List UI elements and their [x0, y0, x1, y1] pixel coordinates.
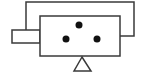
dot-top [76, 22, 83, 29]
base-triangle-icon [74, 57, 91, 71]
left-port-box [12, 30, 40, 43]
dot-bottom-left [63, 36, 70, 43]
schematic-symbol [0, 0, 148, 84]
dot-bottom-right [94, 36, 101, 43]
